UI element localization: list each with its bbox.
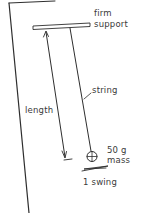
- swing-motion-icon: [82, 166, 108, 171]
- label-string: string: [92, 85, 118, 95]
- label-swing: 1 swing: [83, 177, 117, 187]
- firm-support-bar: [33, 23, 90, 30]
- length-arrow: [44, 31, 73, 160]
- label-firm: firm: [94, 8, 112, 18]
- label-length: length: [25, 105, 53, 115]
- label-mass: mass: [107, 155, 131, 165]
- mass-icon: [87, 152, 97, 162]
- label-support: support: [94, 19, 129, 29]
- string-leader: [84, 93, 91, 99]
- label-mass-amount: 50 g: [107, 145, 127, 155]
- pendulum-diagram: firm support string length 50 g mass 1 s…: [0, 0, 144, 213]
- string-line: [70, 28, 91, 151]
